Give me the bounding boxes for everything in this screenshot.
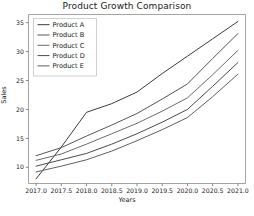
x-tick-label: 2021.0: [227, 187, 249, 194]
y-tick-label: 30: [16, 48, 24, 55]
x-tick-label: 2020.5: [202, 187, 224, 194]
x-tick-label: 2018.0: [76, 187, 98, 194]
x-tick-label: 2019.5: [151, 187, 173, 194]
chart-figure: Product Growth Comparison 2017.02017.520…: [0, 0, 254, 216]
x-axis-label: Years: [0, 196, 254, 204]
legend-label-product-a: Product A: [53, 21, 85, 29]
legend-label-product-d: Product D: [53, 52, 85, 60]
y-tick-label: 20: [16, 106, 24, 113]
x-tick-label: 2017.5: [50, 187, 72, 194]
legend-label-product-c: Product C: [53, 42, 85, 50]
y-tick-label: 10: [16, 163, 24, 170]
x-tick-label: 2017.0: [25, 187, 47, 194]
y-tick-label: 25: [16, 77, 24, 84]
x-tick-label: 2018.5: [101, 187, 123, 194]
y-tick-label: 15: [16, 135, 24, 142]
plot-area: 2017.02017.52018.02018.52019.02019.52020…: [0, 0, 254, 216]
y-tick-label: 35: [16, 19, 24, 26]
x-tick-label: 2020.0: [177, 187, 199, 194]
y-axis-label: Sales: [0, 75, 8, 115]
legend-label-product-e: Product E: [53, 62, 84, 70]
x-tick-label: 2019.0: [126, 187, 148, 194]
legend-label-product-b: Product B: [53, 31, 85, 39]
